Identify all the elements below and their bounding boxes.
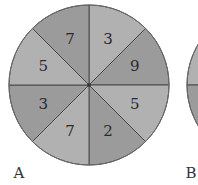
- spinner-b-partial: [187, 5, 198, 165]
- section-number: 3: [38, 95, 48, 113]
- section-number: 2: [103, 122, 113, 140]
- spinner-a-label: A: [13, 164, 25, 182]
- spinner-center: [87, 83, 91, 87]
- section-number: 3: [103, 30, 113, 48]
- section-number: 9: [130, 57, 140, 75]
- spinner-section: [187, 5, 198, 85]
- section-number: 7: [65, 30, 75, 48]
- spinner-section: [187, 85, 198, 165]
- section-number: 5: [130, 95, 140, 113]
- spinner-a: 39527357: [9, 5, 169, 165]
- spinner-diagram: 39527357 A B: [0, 0, 198, 185]
- spinner-b-label: B: [185, 164, 196, 182]
- section-number: 7: [65, 122, 75, 140]
- section-number: 5: [38, 57, 48, 75]
